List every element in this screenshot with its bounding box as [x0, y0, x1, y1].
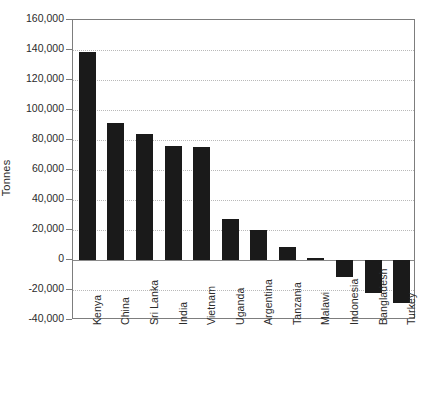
x-axis-category-label: Turkey [405, 293, 417, 325]
x-axis-category-label: Vietnam [205, 286, 217, 325]
y-axis-tick-label-text: -20,000 [28, 282, 64, 294]
x-axis-category-label: India [177, 302, 189, 325]
y-axis-tick-label-text: 100,000 [26, 102, 64, 114]
bar [222, 219, 239, 260]
bar [165, 146, 182, 260]
gridline [73, 80, 414, 81]
bar [336, 260, 353, 277]
x-axis-category-label: Uganda [234, 288, 246, 325]
y-axis-tick-label-text: -40,000 [28, 312, 64, 324]
bar-chart: Tonnes 160,000140,000120,000100,00080,00… [0, 0, 428, 403]
y-axis-tick-label-text: 20,000 [32, 222, 64, 234]
x-axis-category-label: Sri Lanka [148, 280, 160, 325]
x-axis-category-label: Indonesia [348, 279, 360, 325]
bar [136, 134, 153, 260]
x-axis-category-label: Tanzania [291, 282, 303, 325]
gridline [73, 110, 414, 111]
y-axis-tick-label-text: 40,000 [32, 192, 64, 204]
zero-axis-line [73, 260, 414, 261]
bar [250, 230, 267, 260]
plot-area [72, 19, 415, 319]
bar [307, 258, 324, 260]
x-axis-category-label: Bangladesh [377, 269, 389, 325]
x-axis-category-label: China [119, 297, 131, 325]
x-axis-category-label: Argentina [262, 279, 274, 325]
y-axis-tick-label-text: 60,000 [32, 162, 64, 174]
x-axis-category-label: Malawi [319, 292, 331, 325]
y-axis-tick-label-text: 120,000 [26, 72, 64, 84]
bar [193, 147, 210, 260]
y-axis-tick [66, 319, 72, 320]
gridline [73, 50, 414, 51]
y-axis-tick-label-text: 80,000 [32, 132, 64, 144]
bar [79, 52, 96, 260]
y-axis-tick-label-text: 160,000 [26, 12, 64, 24]
x-axis-category-label: Kenya [91, 295, 103, 325]
bar [279, 247, 296, 260]
y-axis-title: Tonnes [0, 148, 12, 208]
y-axis-tick-label-text: 0 [58, 252, 64, 264]
bar [107, 123, 124, 260]
y-axis-tick-label-text: 140,000 [26, 42, 64, 54]
